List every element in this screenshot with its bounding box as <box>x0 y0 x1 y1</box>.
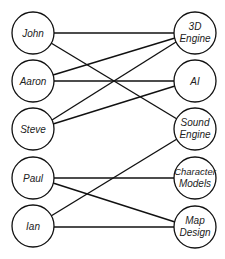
node-label-line1: Map <box>185 215 205 226</box>
node-label: Aaron <box>19 76 47 87</box>
bipartite-diagram: John Aaron Steve Paul Ian 3D Engine AI S… <box>0 0 225 259</box>
node-label: Steve <box>20 124 46 135</box>
edge-aaron-3d-engine <box>53 38 175 75</box>
edge-paul-map-design <box>53 183 175 222</box>
node-label-line2: Models <box>179 178 211 189</box>
node-label-line2: Engine <box>179 33 211 44</box>
node-label: John <box>21 28 44 39</box>
node-label: Ian <box>26 221 40 232</box>
node-map-design: Map Design <box>174 206 216 248</box>
node-label-line1: AI <box>189 76 200 87</box>
node-ai: AI <box>174 60 216 102</box>
node-label-line2: Design <box>179 227 211 238</box>
node-label-line1: 3D <box>189 21 202 32</box>
node-john: John <box>12 12 54 54</box>
node-aaron: Aaron <box>12 60 54 102</box>
node-steve: Steve <box>12 108 54 150</box>
node-label-line1: Sound <box>181 117 210 128</box>
node-character-models: Character Models <box>174 157 217 199</box>
node-3d-engine: 3D Engine <box>174 12 216 54</box>
node-sound-engine: Sound Engine <box>174 108 216 150</box>
node-label-line1: Character <box>174 166 217 177</box>
node-label-line2: Engine <box>179 129 211 140</box>
node-label: Paul <box>23 173 44 184</box>
node-ian: Ian <box>12 205 54 247</box>
edge-steve-ai <box>53 86 175 124</box>
node-paul: Paul <box>12 157 54 199</box>
edges <box>51 33 177 227</box>
